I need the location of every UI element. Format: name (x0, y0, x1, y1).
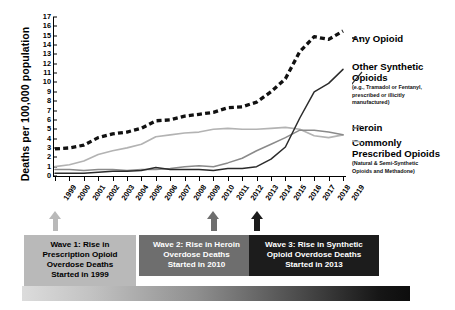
chart-root: Deaths per 100,000 population 0123456789… (0, 0, 455, 310)
y-tick-label: 4 (47, 135, 51, 142)
y-tick-label: 3 (47, 144, 51, 151)
wave-1-arrow-shaft (53, 217, 59, 231)
x-tick-label: 2000 (76, 183, 93, 202)
x-tick-label: 2005 (148, 183, 165, 202)
x-tick-label: 2017 (321, 183, 338, 202)
x-tick-mark (271, 177, 272, 181)
wave-1-line-4: Started in 1999 (28, 270, 132, 280)
x-tick-mark (329, 177, 330, 181)
wave-1-line-3: Overdose Deaths (28, 260, 132, 270)
y-tick-label: 17 (43, 13, 51, 20)
x-tick-label: 1999 (61, 183, 78, 202)
wave-1-line-2: Prescription Opioid (28, 250, 132, 260)
x-tick-mark (300, 177, 301, 181)
x-tick-label: 2013 (263, 183, 280, 202)
y-tick-label: 10 (43, 79, 51, 86)
y-tick-label: 15 (43, 32, 51, 39)
x-tick-mark (257, 177, 258, 181)
series-line-commonly-prescribed-opioids (55, 127, 343, 166)
x-tick-mark (55, 177, 56, 181)
wave-3-box: Wave 3: Rise in SyntheticOpioid Overdose… (249, 235, 379, 276)
y-tick-label: 0 (47, 172, 51, 179)
series-line-other-synthetic-opioids (55, 69, 343, 173)
wave-2-arrow-shaft (211, 217, 217, 231)
wave-2-line-3: Started in 2010 (143, 260, 250, 270)
wave-3-line-3: Started in 2013 (253, 260, 375, 270)
x-tick-mark (343, 177, 344, 181)
wave-3-arrow-shaft (254, 217, 260, 231)
y-tick-label: 8 (47, 97, 51, 104)
y-tick-label: 13 (43, 51, 51, 58)
severity-gradient-bar (22, 286, 410, 301)
series-lines (53, 17, 345, 176)
x-tick-mark (185, 177, 186, 181)
x-tick-mark (84, 177, 85, 181)
x-tick-label: 2007 (177, 183, 194, 202)
wave-callouts: Wave 1: Rise inPrescription OpioidOverdo… (0, 211, 455, 281)
x-tick-mark (69, 177, 70, 181)
x-tick-mark (228, 177, 229, 181)
x-tick-label: 2001 (90, 183, 107, 202)
wave-2-box: Wave 2: Rise in HeroinOverdose DeathsSta… (139, 235, 254, 276)
x-tick-label: 2003 (119, 183, 136, 202)
wave-3-line-1: Wave 3: Rise in Synthetic (253, 240, 375, 250)
x-tick-label: 2010 (220, 183, 237, 202)
x-tick-mark (113, 177, 114, 181)
x-axis-ticks: 1999200020012002200320042005200620072008… (53, 177, 346, 211)
x-tick-label: 2008 (191, 183, 208, 202)
x-tick-label: 2019 (349, 183, 366, 202)
y-tick-label: 1 (47, 163, 51, 170)
wave-1-line-1: Wave 1: Rise in (28, 240, 132, 250)
x-tick-mark (242, 177, 243, 181)
legend-leader-lines (352, 0, 455, 180)
x-tick-label: 2006 (162, 183, 179, 202)
y-tick-label: 5 (47, 126, 51, 133)
x-tick-label: 2015 (292, 183, 309, 202)
wave-1-box: Wave 1: Rise inPrescription OpioidOverdo… (24, 235, 136, 286)
wave-2-line-1: Wave 2: Rise in Heroin (143, 240, 250, 250)
x-tick-mark (127, 177, 128, 181)
plot-area (53, 17, 345, 176)
x-tick-mark (156, 177, 157, 181)
y-tick-label: 6 (47, 116, 51, 123)
y-tick-label: 9 (47, 88, 51, 95)
x-tick-label: 2011 (234, 183, 251, 202)
y-tick-label: 11 (43, 69, 51, 76)
x-tick-label: 2014 (277, 183, 294, 202)
x-tick-label: 2012 (249, 183, 266, 202)
chart-legend: Any Opioid Other Synthetic Opioids (e.g.… (352, 0, 455, 180)
x-tick-mark (141, 177, 142, 181)
x-tick-mark (285, 177, 286, 181)
y-tick-label: 16 (43, 23, 51, 30)
x-tick-mark (213, 177, 214, 181)
y-axis-title: Deaths per 100,000 population (19, 19, 31, 189)
y-tick-label: 12 (43, 60, 51, 67)
wave-3-line-2: Opioid Overdose Deaths (253, 250, 375, 260)
x-tick-label: 2009 (205, 183, 222, 202)
x-tick-mark (199, 177, 200, 181)
x-tick-label: 2018 (335, 183, 352, 202)
x-tick-mark (98, 177, 99, 181)
x-tick-label: 2004 (133, 183, 150, 202)
x-tick-label: 2016 (306, 183, 323, 202)
y-tick-label: 7 (47, 107, 51, 114)
x-tick-mark (170, 177, 171, 181)
x-tick-label: 2002 (105, 183, 122, 202)
x-tick-mark (314, 177, 315, 181)
wave-2-line-2: Overdose Deaths (143, 250, 250, 260)
y-tick-label: 14 (43, 41, 51, 48)
y-tick-label: 2 (47, 154, 51, 161)
